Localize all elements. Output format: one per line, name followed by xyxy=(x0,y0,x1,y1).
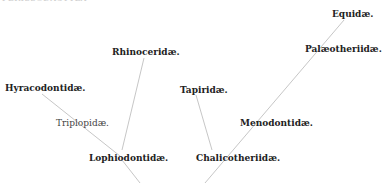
node-menodontidae: Menodontidæ. xyxy=(240,118,313,128)
branch-lophiodontidae xyxy=(122,160,140,183)
node-tapiridae: Tapiridæ. xyxy=(180,85,228,95)
node-triplopidae: Triplopidæ. xyxy=(56,118,109,128)
branch-rhinoceridae xyxy=(122,58,144,150)
node-palaeotheriidae: Palæotheriidæ. xyxy=(305,44,382,54)
branch-tapiridae xyxy=(196,95,212,150)
node-equidae: Equidæ. xyxy=(332,9,373,19)
node-lophiodontidae: Lophiodontidæ. xyxy=(89,153,168,163)
node-chalicotheriidae: Chalicotheriidæ. xyxy=(196,153,280,163)
node-rhinoceridae: Rhinoceridæ. xyxy=(112,47,180,57)
node-hyracodontidae: Hyracodontidæ. xyxy=(5,83,85,93)
